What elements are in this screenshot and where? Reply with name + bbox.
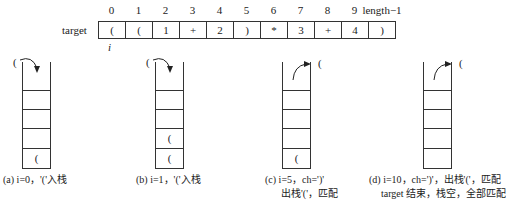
- stack-slot: [424, 109, 451, 128]
- stack-a: (: [22, 62, 51, 169]
- caption-d-line1: (d) i=10，ch=')'，出栈'('，匹配: [369, 173, 501, 186]
- caption-c-line2: 出栈'('，匹配: [281, 187, 338, 200]
- array-index: 4: [206, 4, 233, 17]
- array-cell: 2: [207, 22, 234, 38]
- caption-d-line2: target 结束，栈空，全部匹配: [381, 187, 506, 200]
- popped-char: (: [318, 57, 322, 69]
- index-pointer-i: i: [108, 41, 111, 53]
- array-index: 2: [152, 4, 179, 17]
- stack-slot: [156, 90, 183, 109]
- stack-slot: [424, 128, 451, 147]
- stack-slot: (: [156, 148, 183, 168]
- stack-slot: (: [156, 128, 183, 147]
- array-index: 8: [314, 4, 341, 17]
- caption-b: (b) i=1，'('入栈: [136, 173, 201, 186]
- array-index: 5: [233, 4, 260, 17]
- pushed-char: (: [13, 56, 17, 68]
- stack-d: [423, 62, 452, 169]
- stack-b: ( (: [155, 62, 184, 169]
- array-index: 1: [125, 4, 152, 17]
- array-cell: +: [315, 22, 342, 38]
- popped-char: (: [459, 57, 463, 69]
- array-index: 6: [260, 4, 287, 17]
- array-cell: 3: [288, 22, 315, 38]
- stack-slot: [283, 90, 310, 109]
- target-array: ( ( 1 + 2 ) * 3 + 4 ): [98, 21, 396, 39]
- stack-slot: [156, 109, 183, 128]
- stack-slot: [23, 109, 50, 128]
- pushed-char: (: [146, 56, 150, 68]
- stack-slot: [424, 90, 451, 109]
- array-index: 3: [179, 4, 206, 17]
- stack-slot: [424, 148, 451, 168]
- stack-slot: [23, 128, 50, 147]
- array-cell: 1: [153, 22, 180, 38]
- array-index: 0: [98, 4, 125, 17]
- array-cell: ): [369, 22, 395, 38]
- stack-c: (: [282, 62, 311, 169]
- stack-slot: [23, 90, 50, 109]
- caption-c-line1: (c) i=5，ch=')': [265, 173, 324, 186]
- array-index-last: length−1: [362, 4, 402, 17]
- array-label: target: [62, 23, 87, 37]
- array-cell: ): [234, 22, 261, 38]
- stack-slot: [283, 109, 310, 128]
- stack-slot: (: [23, 148, 50, 168]
- array-cell: (: [126, 22, 153, 38]
- array-index: 7: [287, 4, 314, 17]
- array-cell: *: [261, 22, 288, 38]
- caption-a: (a) i=0，'('入栈: [3, 173, 67, 186]
- array-cell: +: [180, 22, 207, 38]
- stack-slot: (: [283, 148, 310, 168]
- array-cell: 4: [342, 22, 369, 38]
- stack-slot: [283, 128, 310, 147]
- array-cell: (: [99, 22, 126, 38]
